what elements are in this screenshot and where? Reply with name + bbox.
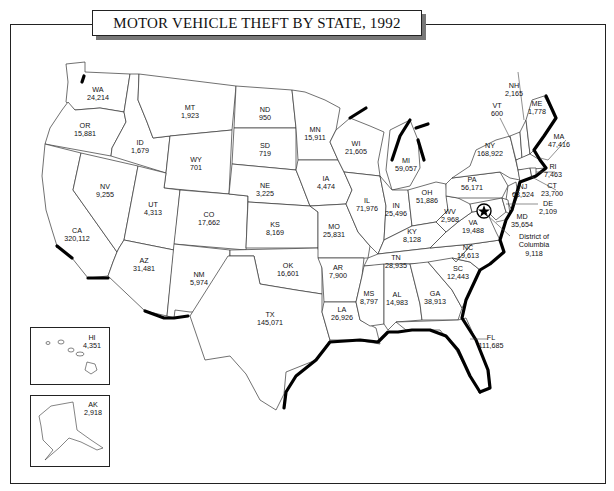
label-mt: MT1,923 xyxy=(181,104,199,121)
label-nd: ND950 xyxy=(259,106,271,123)
label-tn: TN28,935 xyxy=(385,254,407,271)
label-ks: KS8,169 xyxy=(266,221,284,238)
label-ia: IA4,474 xyxy=(317,175,335,192)
label-ky: KY8,128 xyxy=(403,228,421,245)
label-fl: FL111,685 xyxy=(479,334,504,351)
label-ca: CA320,112 xyxy=(64,227,89,244)
label-ut: UT4,313 xyxy=(144,201,162,218)
label-co: CO17,662 xyxy=(198,211,220,228)
label-nm: NM5,974 xyxy=(190,271,208,288)
label-dc: District ofColumbia9,118 xyxy=(519,233,549,258)
label-or: OR15,881 xyxy=(74,122,96,139)
label-il: IL71,976 xyxy=(356,197,378,214)
label-ak: AK2,918 xyxy=(84,401,102,418)
label-me: ME1,778 xyxy=(528,100,546,117)
map-title-box: MOTOR VEHICLE THEFT BY STATE, 1992 xyxy=(92,10,422,36)
label-va: VA19,488 xyxy=(462,219,484,236)
state-az xyxy=(108,240,174,316)
label-de: DE2,109 xyxy=(539,200,557,217)
label-nj: NJ63,524 xyxy=(512,183,534,200)
label-in: IN25,496 xyxy=(385,202,407,219)
label-tx: TX145,071 xyxy=(257,311,283,328)
label-mn: MN15,911 xyxy=(304,126,325,143)
label-wa: WA24,214 xyxy=(87,86,109,103)
label-ga: GA38,913 xyxy=(424,290,446,307)
label-hi: HI4,351 xyxy=(83,334,101,351)
label-ok: OK16,601 xyxy=(277,262,299,279)
label-ct: CT23,700 xyxy=(541,182,563,199)
label-id: ID1,679 xyxy=(131,139,149,156)
label-az: AZ31,481 xyxy=(133,257,155,274)
label-ar: AR7,900 xyxy=(329,264,347,281)
label-wi: WI21,605 xyxy=(345,140,367,157)
label-nv: NV9,255 xyxy=(96,183,114,200)
label-ne: NE3,225 xyxy=(256,182,274,199)
label-ma: MA47,416 xyxy=(548,133,570,150)
label-wy: WY701 xyxy=(190,156,202,173)
label-mi: MI59,057 xyxy=(395,157,417,174)
label-oh: OH51,886 xyxy=(416,189,438,206)
label-sc: SC12,443 xyxy=(447,265,469,282)
label-mo: MO25,831 xyxy=(323,223,345,240)
label-la: LA26,926 xyxy=(331,306,353,323)
label-ny: NY168,922 xyxy=(477,142,503,159)
label-nc: NC19,613 xyxy=(457,244,479,261)
label-sd: SD719 xyxy=(259,142,271,159)
label-md: MD35,654 xyxy=(511,213,533,230)
label-ms: MS8,797 xyxy=(360,290,378,307)
dc-star-icon xyxy=(477,204,491,218)
label-ri: RI7,463 xyxy=(544,163,562,180)
label-wv: WV2,968 xyxy=(441,208,459,225)
label-pa: PA56,171 xyxy=(461,176,483,193)
label-nh: NH2,165 xyxy=(505,82,523,99)
map-title: MOTOR VEHICLE THEFT BY STATE, 1992 xyxy=(113,15,400,32)
label-al: AL14,983 xyxy=(386,291,408,308)
label-vt: VT600 xyxy=(491,102,503,119)
